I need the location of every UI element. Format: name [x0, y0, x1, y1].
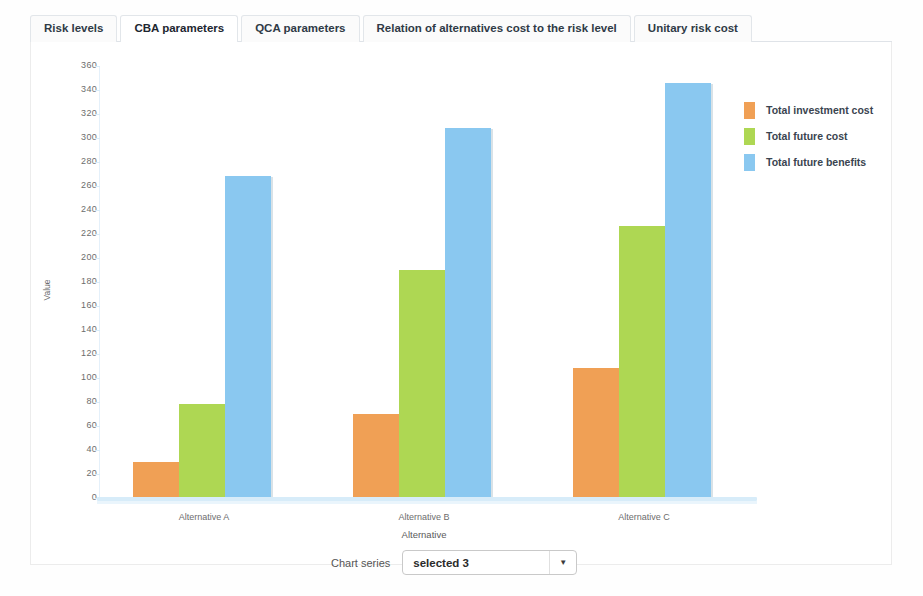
- y-axis-tick-label: 360: [63, 61, 97, 70]
- tab-qca-parameters[interactable]: QCA parameters: [241, 15, 359, 42]
- chart-legend: Total investment costTotal future costTo…: [744, 97, 923, 175]
- y-axis-tick-label: 140: [63, 325, 97, 334]
- y-axis-tick-label: 320: [63, 109, 97, 118]
- y-axis-tick-label: 180: [63, 277, 97, 286]
- legend-label: Total investment cost: [766, 104, 873, 116]
- tab-content-panel: 0204060801001201401601802002202402602803…: [30, 42, 892, 565]
- bar-alternative-b-series-1[interactable]: [399, 270, 445, 498]
- tab-risk-levels[interactable]: Risk levels: [30, 15, 117, 42]
- tab-cba-parameters[interactable]: CBA parameters: [120, 15, 238, 42]
- plot-area: [99, 66, 749, 498]
- chevron-down-icon[interactable]: ▼: [549, 551, 576, 574]
- legend-item[interactable]: Total future benefits: [744, 149, 923, 175]
- x-axis-line-shadow: [97, 501, 757, 504]
- chart-series-label: Chart series: [331, 557, 390, 569]
- chart-series-control: Chart series selected 3 ▼: [331, 550, 577, 575]
- y-axis-tick-labels: 0204060801001201401601802002202402602803…: [53, 42, 97, 542]
- legend-label: Total future cost: [766, 130, 847, 142]
- y-axis-tick-label: 100: [63, 373, 97, 382]
- bar-alternative-b-series-0[interactable]: [353, 414, 399, 498]
- bar-alternative-a-series-1[interactable]: [179, 404, 225, 498]
- y-axis-tick-label: 80: [63, 397, 97, 406]
- bar-alternative-b-series-2[interactable]: [445, 128, 491, 498]
- legend-item[interactable]: Total future cost: [744, 123, 923, 149]
- y-axis-tick-label: 60: [63, 421, 97, 430]
- legend-swatch-icon: [744, 128, 755, 145]
- tab-relation-of-alternatives-cost-to-the-risk-level[interactable]: Relation of alternatives cost to the ris…: [363, 15, 631, 42]
- x-axis-tick-label: Alternative B: [339, 512, 509, 522]
- y-axis-tick-label: 0: [63, 493, 97, 502]
- chart-series-selected-value: selected 3: [403, 557, 549, 569]
- legend-swatch-icon: [744, 154, 755, 171]
- application-page: Risk levelsCBA parametersQCA parametersR…: [0, 0, 923, 596]
- y-axis-tick-label: 20: [63, 469, 97, 478]
- bar-group: [569, 66, 719, 498]
- y-axis-tick-label: 340: [63, 85, 97, 94]
- y-axis-tick-label: 220: [63, 229, 97, 238]
- bar-alternative-a-series-0[interactable]: [133, 462, 179, 498]
- cba-parameters-bar-chart: 0204060801001201401601802002202402602803…: [31, 42, 891, 542]
- bar-group: [349, 66, 499, 498]
- x-axis-tick-label: Alternative C: [559, 512, 729, 522]
- bar-alternative-a-series-2[interactable]: [225, 176, 271, 498]
- bar-alternative-c-series-0[interactable]: [573, 368, 619, 498]
- tab-bar: Risk levelsCBA parametersQCA parametersR…: [30, 14, 892, 42]
- x-axis-tick-label: Alternative A: [119, 512, 289, 522]
- legend-label: Total future benefits: [766, 156, 866, 168]
- bar-group: [129, 66, 279, 498]
- y-axis-tick-label: 40: [63, 445, 97, 454]
- y-axis-tick-label: 300: [63, 133, 97, 142]
- legend-item[interactable]: Total investment cost: [744, 97, 923, 123]
- bar-alternative-c-series-2[interactable]: [665, 83, 711, 498]
- y-axis-tick-label: 260: [63, 181, 97, 190]
- y-axis-title: Value: [42, 268, 52, 312]
- legend-swatch-icon: [744, 102, 755, 119]
- y-axis-tick-label: 240: [63, 205, 97, 214]
- tab-unitary-risk-cost[interactable]: Unitary risk cost: [634, 15, 752, 42]
- x-axis-title: Alternative: [99, 529, 749, 540]
- chart-series-select[interactable]: selected 3 ▼: [402, 550, 577, 575]
- y-axis-tick-label: 120: [63, 349, 97, 358]
- y-axis-tick-label: 160: [63, 301, 97, 310]
- y-axis-tick-label: 200: [63, 253, 97, 262]
- y-axis-tick-label: 280: [63, 157, 97, 166]
- bar-alternative-c-series-1[interactable]: [619, 226, 665, 498]
